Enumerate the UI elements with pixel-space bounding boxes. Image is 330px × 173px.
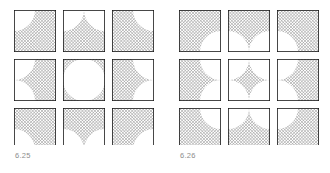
cell-r2-c2 xyxy=(112,108,165,145)
figure-6-26-caption: 6.26 xyxy=(180,151,196,160)
cell-r2-c0 xyxy=(0,108,56,145)
figure-6-26: 6.26 xyxy=(165,0,330,173)
cell-r1-c1 xyxy=(63,59,105,101)
figure-6-25-caption: 6.25 xyxy=(15,151,31,160)
figure-6-25: 6.25 xyxy=(0,0,165,173)
cell-r0-c0 xyxy=(0,0,56,52)
figure-6-26-artwork xyxy=(165,0,330,145)
figure-6-25-artwork xyxy=(0,0,165,145)
cell-r0-c2 xyxy=(112,0,165,52)
figure-page: 6.25 6.26 xyxy=(0,0,330,173)
